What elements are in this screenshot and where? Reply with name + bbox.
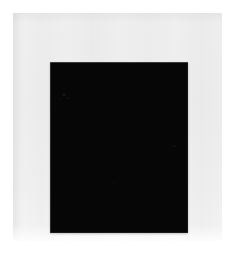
paper-sheet [13, 13, 222, 241]
black-rectangle-left-edge-highlight [50, 62, 51, 233]
surface-mark-mid-right [172, 145, 176, 147]
surface-mark-upper-left-a [62, 93, 66, 96]
surface-mark-upper-left-b [67, 97, 70, 99]
paper-top-shading [13, 13, 222, 23]
black-rectangle-right-edge-highlight [187, 62, 188, 233]
artwork-canvas [0, 0, 235, 263]
surface-mark-lower-center [113, 182, 116, 184]
black-rectangle-bottom-edge-highlight [50, 232, 188, 233]
black-rectangle-top-edge-highlight [50, 62, 188, 63]
surface-mark-upper-left-c [59, 98, 61, 100]
paper-left-shading [13, 13, 21, 241]
black-rectangle [50, 62, 188, 233]
